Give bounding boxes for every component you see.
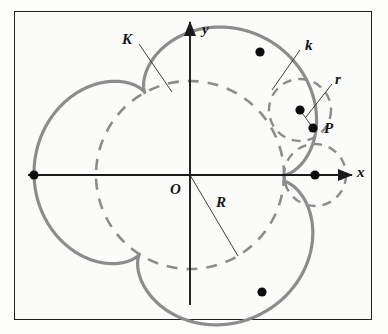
label-fixed-radius-R: R <box>216 195 226 210</box>
label-fixed-circle-K: K <box>122 32 132 47</box>
label-point-P: P <box>324 121 333 136</box>
figure-canvas <box>0 0 388 334</box>
label-origin-O: O <box>170 182 181 197</box>
label-x-axis: x <box>357 165 365 180</box>
label-rolling-radius-r: r <box>335 72 341 87</box>
point-point-P <box>308 123 317 132</box>
label-rolling-circle-k: k <box>305 38 313 53</box>
point-curve-point-bottom-right <box>257 287 266 296</box>
label-y-axis: y <box>202 22 209 37</box>
leader-k <box>272 50 300 90</box>
point-rolling-circle-center-upper <box>295 105 304 114</box>
point-cusp-left-on-x-axis <box>29 170 38 179</box>
radius-R-segment <box>190 175 238 256</box>
epicycloid-figure: K k r P R O x y <box>0 0 388 334</box>
point-curve-point-top-right <box>255 47 264 56</box>
point-rolling-circle-center-x-axis <box>310 170 319 179</box>
